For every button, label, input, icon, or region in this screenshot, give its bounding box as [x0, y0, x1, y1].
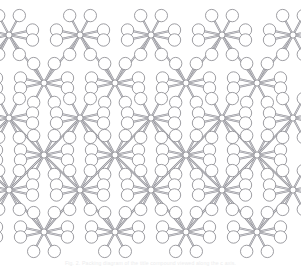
metal-center [219, 32, 225, 38]
ligand-atom [121, 189, 133, 201]
ligand-atom [205, 48, 217, 60]
metal-center [6, 115, 12, 121]
ligand-atom [61, 231, 73, 243]
ligand-atom [156, 231, 168, 243]
ligand-atom [226, 164, 238, 176]
ligand-atom [192, 34, 204, 46]
ligand-atom [203, 231, 215, 243]
ligand-atom [119, 57, 131, 69]
ligand-atom [84, 131, 96, 143]
metal-center [183, 229, 189, 235]
ligand-atom [240, 57, 252, 69]
ligand-atom [169, 206, 181, 218]
ligand-atom [168, 189, 180, 201]
ligand-atom [48, 57, 60, 69]
ligand-atom [168, 117, 180, 129]
ligand-atom [26, 34, 38, 46]
ligand-atom [63, 203, 75, 215]
ligand-atom [97, 117, 109, 129]
metal-center [183, 152, 189, 158]
ligand-atom [27, 206, 39, 218]
ligand-atom [190, 245, 202, 257]
ligand-atom [276, 92, 288, 104]
ligand-atom [98, 206, 110, 218]
ligand-atom [155, 48, 167, 60]
ligand-atom [27, 129, 39, 141]
metal-center [41, 229, 47, 235]
ligand-atom [121, 34, 133, 46]
metal-center [6, 187, 12, 193]
ligand-atom [226, 9, 238, 21]
ligand-atom [155, 9, 167, 21]
ligand-atom [119, 206, 131, 218]
ligand-atom [276, 164, 288, 176]
ligand-atom [261, 245, 273, 257]
ligand-atom [263, 189, 275, 201]
ligand-atom [84, 92, 96, 104]
ligand-atom [155, 131, 167, 143]
ligand-atom [261, 129, 273, 141]
ligand-atom [190, 129, 202, 141]
metal-center [77, 32, 83, 38]
ligand-atom [240, 245, 252, 257]
metal-center [77, 187, 83, 193]
diagram-background [0, 0, 301, 267]
ligand-atom [97, 34, 109, 46]
metal-center [41, 152, 47, 158]
ligand-atom [84, 203, 96, 215]
ligand-atom [276, 131, 288, 143]
ligand-atom [134, 92, 146, 104]
ligand-atom [132, 231, 144, 243]
ligand-atom [48, 206, 60, 218]
ligand-atom [190, 57, 202, 69]
metal-center [254, 80, 260, 86]
ligand-atom [13, 48, 25, 60]
ligand-atom [13, 9, 25, 21]
ligand-atom [169, 245, 181, 257]
ligand-atom [169, 129, 181, 141]
ligand-atom [26, 117, 38, 129]
ligand-atom [27, 245, 39, 257]
ligand-atom [205, 92, 217, 104]
ligand-atom [134, 9, 146, 21]
ligand-atom [155, 164, 167, 176]
ligand-atom [27, 57, 39, 69]
ligand-atom [63, 131, 75, 143]
ligand-atom [227, 231, 239, 243]
ligand-atom [239, 189, 251, 201]
ligand-atom [276, 48, 288, 60]
ligand-atom [63, 164, 75, 176]
metal-center [148, 32, 154, 38]
ligand-atom [48, 129, 60, 141]
metal-center [183, 80, 189, 86]
ligand-atom [226, 131, 238, 143]
ligand-atom [169, 57, 181, 69]
ligand-atom [50, 34, 62, 46]
metal-center [254, 229, 260, 235]
ligand-atom [84, 9, 96, 21]
ligand-atom [205, 131, 217, 143]
metal-center [290, 115, 296, 121]
ligand-atom [98, 129, 110, 141]
metal-center [219, 115, 225, 121]
metal-center [148, 187, 154, 193]
ligand-atom [226, 48, 238, 60]
metal-center [77, 115, 83, 121]
metal-center [112, 80, 118, 86]
ligand-atom [263, 117, 275, 129]
figure-root: Fig. 2. Packing diagram of the title com… [0, 0, 301, 267]
ligand-atom [63, 9, 75, 21]
ligand-atom [205, 9, 217, 21]
ligand-atom [240, 206, 252, 218]
ligand-atom [205, 203, 217, 215]
ligand-atom [13, 203, 25, 215]
ligand-atom [13, 92, 25, 104]
metal-center [112, 152, 118, 158]
ligand-atom [97, 189, 109, 201]
ligand-atom [205, 164, 217, 176]
ligand-atom [63, 92, 75, 104]
metal-center [148, 115, 154, 121]
ligand-atom [63, 48, 75, 60]
ligand-atom [226, 203, 238, 215]
ligand-atom [261, 206, 273, 218]
